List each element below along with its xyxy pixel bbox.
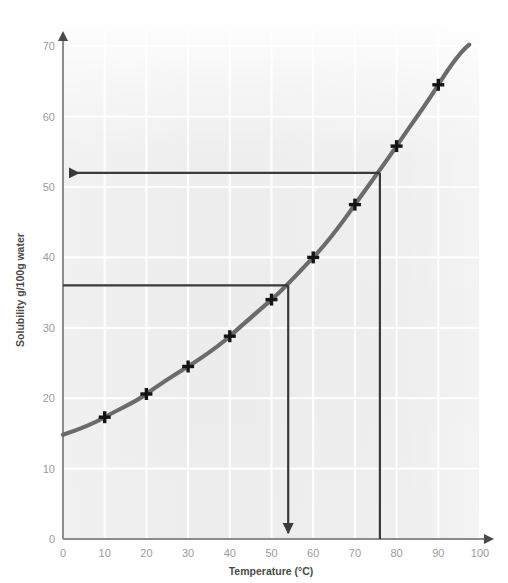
y-tick-10: 10: [43, 463, 55, 475]
x-tick-50: 50: [265, 547, 277, 559]
y-tick-30: 30: [43, 322, 55, 334]
x-tick-10: 10: [99, 547, 111, 559]
x-tick-60: 60: [307, 547, 319, 559]
y-tick-70: 70: [43, 40, 55, 52]
x-tick-20: 20: [140, 547, 152, 559]
x-tick-70: 70: [349, 547, 361, 559]
y-tick-0: 0: [49, 533, 55, 545]
solubility-chart: 0 10 20 30 40 50 60 70 0 10 20 30 40 50 …: [0, 0, 508, 583]
x-tick-40: 40: [224, 547, 236, 559]
x-tick-0: 0: [60, 547, 66, 559]
y-tick-labels: 0 10 20 30 40 50 60 70: [43, 40, 55, 545]
y-tick-20: 20: [43, 392, 55, 404]
x-tick-80: 80: [390, 547, 402, 559]
y-tick-60: 60: [43, 111, 55, 123]
y-tick-40: 40: [43, 251, 55, 263]
x-axis-title: Temperature (°C): [229, 565, 314, 577]
y-axis-title: Solubility g/100g water: [14, 233, 26, 347]
y-tick-50: 50: [43, 181, 55, 193]
x-tick-100: 100: [471, 547, 489, 559]
chart-figure: 0 10 20 30 40 50 60 70 0 10 20 30 40 50 …: [0, 0, 508, 583]
x-tick-labels: 0 10 20 30 40 50 60 70 80 90 100: [60, 547, 489, 559]
x-tick-90: 90: [432, 547, 444, 559]
x-tick-30: 30: [182, 547, 194, 559]
